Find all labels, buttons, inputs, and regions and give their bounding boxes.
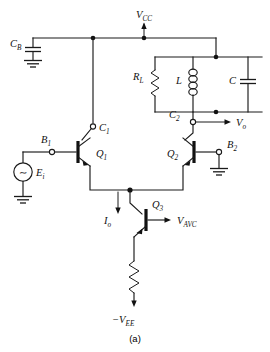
rl-zigzag-body: [151, 70, 159, 96]
vee-arrow-head: [131, 301, 136, 308]
vcc-arrow-head: [141, 23, 146, 30]
vcc-rail-group: [33, 23, 216, 41]
terminal-b2[interactable]: [216, 149, 221, 154]
re-zigzag-body: [129, 261, 139, 293]
q2-emitter-arrow: [185, 161, 191, 166]
vo-label: Vo: [236, 117, 246, 131]
q2-collector-lead: [185, 125, 193, 140]
vo-arrow-head: [225, 119, 232, 124]
ei-label: Ei: [35, 167, 44, 181]
q1-label: Q1: [96, 148, 107, 162]
cb-label: CB: [10, 38, 22, 52]
terminal-c1[interactable]: [90, 124, 95, 129]
l-coil-loop-2: [189, 76, 197, 83]
q1-emitter-arrow: [83, 161, 89, 166]
b2-terminal-group: [210, 149, 228, 175]
tank-top-node: [214, 55, 219, 60]
vavc-label: VAVC: [177, 215, 197, 229]
c-label: C: [229, 75, 237, 86]
input-source-group: ∼: [14, 149, 55, 203]
vcc-label: VCC: [136, 9, 152, 23]
io-label: Io: [103, 215, 112, 229]
q1-collector-branch: [82, 36, 96, 140]
circuit-figure: VCC CB C1: [0, 0, 270, 352]
b1-label: B1: [41, 134, 51, 148]
vcc-tap-node: [142, 36, 147, 41]
q3-label: Q3: [152, 199, 164, 213]
transistor-q1: [55, 138, 130, 190]
ac-source-symbol: ∼: [19, 167, 27, 178]
l-coil-loop-1: [189, 69, 197, 76]
figure-caption-wrap: (a): [0, 328, 270, 346]
l-coil-loop-4: [189, 89, 197, 96]
rl-label: RL: [132, 71, 143, 85]
vavc-arrow-head: [165, 217, 172, 222]
emitter-resistor-group: [129, 261, 139, 307]
transistor-q2: [130, 138, 216, 190]
tank-circuit-group: [151, 38, 262, 114]
q2-emitter-wire: [130, 166, 183, 190]
q3-collector-slant: [130, 192, 142, 214]
l-coil-loop-3: [189, 82, 197, 89]
figure-caption: (a): [129, 333, 141, 344]
c1-label: C1: [99, 122, 110, 136]
q2-label: Q2: [167, 148, 179, 162]
c2-label: C2: [169, 109, 180, 123]
q2-collector-slant: [183, 138, 194, 147]
bypass-capacitor-group: [24, 38, 42, 67]
schematic-diagram: VCC CB C1: [0, 0, 270, 352]
l-label: L: [175, 75, 182, 86]
q1-collector-slant: [78, 138, 90, 147]
terminal-c2[interactable]: [190, 119, 195, 124]
b2-label: B2: [227, 139, 237, 153]
terminal-b1[interactable]: [49, 149, 54, 154]
vee-label: −VEE: [112, 314, 135, 328]
io-arrow-head: [115, 208, 120, 215]
output-branch-group: [185, 112, 231, 140]
tank-bottom-node: [214, 110, 219, 115]
transistor-q3: [130, 192, 171, 261]
q1-emitter-wire: [90, 166, 130, 190]
